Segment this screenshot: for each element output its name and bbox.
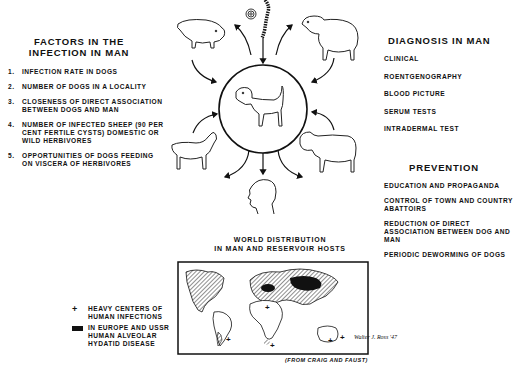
sheep-icon bbox=[302, 16, 358, 60]
world-map: + + + + + bbox=[178, 262, 368, 354]
svg-text:+: + bbox=[340, 333, 345, 342]
plus-icon: + bbox=[72, 305, 88, 321]
dog-icon bbox=[236, 86, 283, 126]
svg-text:+: + bbox=[328, 336, 333, 345]
artist-signature: Walter J. Ross '47 bbox=[354, 334, 397, 340]
cow-icon bbox=[300, 132, 356, 172]
legend-item: + HEAVY CENTERS OF HUMAN INFECTIONS bbox=[72, 305, 182, 321]
tapeworm-icon bbox=[262, 0, 269, 38]
pig-icon bbox=[177, 20, 224, 49]
dog-circle bbox=[219, 65, 307, 153]
man-head-icon bbox=[248, 180, 276, 214]
svg-text:+: + bbox=[226, 335, 231, 344]
legend-item: IN EUROPE AND USSR HUMAN ALVEOLAR HYDATI… bbox=[72, 324, 182, 348]
black-block-icon bbox=[72, 324, 88, 348]
svg-text:+: + bbox=[270, 341, 275, 350]
goat-icon bbox=[172, 132, 217, 169]
map-title: WORLD DISTRIBUTION IN MAN AND RESERVOIR … bbox=[210, 236, 350, 253]
svg-text:+: + bbox=[265, 303, 270, 312]
map-credit: (FROM CRAIG AND FAUST) bbox=[285, 357, 368, 363]
egg-icon bbox=[246, 9, 256, 19]
map-legend: + HEAVY CENTERS OF HUMAN INFECTIONS IN E… bbox=[72, 305, 182, 351]
